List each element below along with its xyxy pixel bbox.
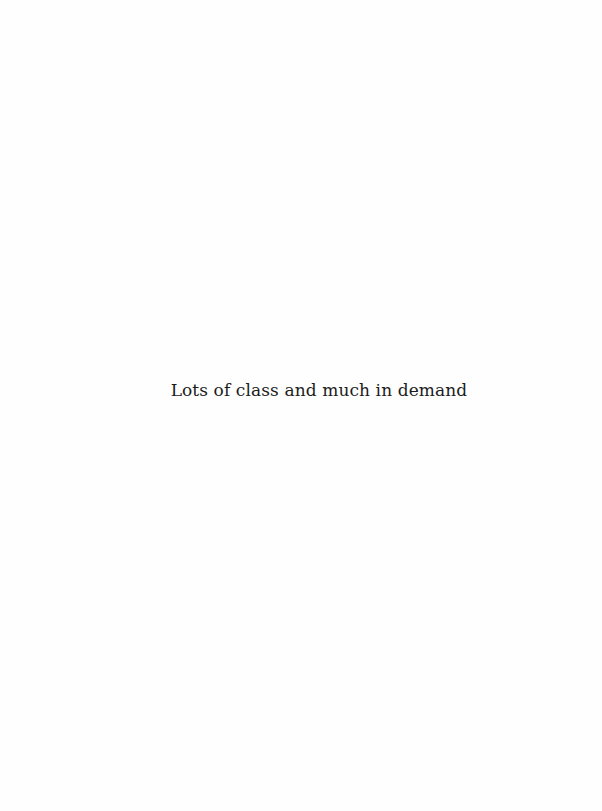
page-caption: Lots of class and much in demand	[0, 380, 602, 400]
document-page: Lots of class and much in demand	[0, 0, 602, 811]
